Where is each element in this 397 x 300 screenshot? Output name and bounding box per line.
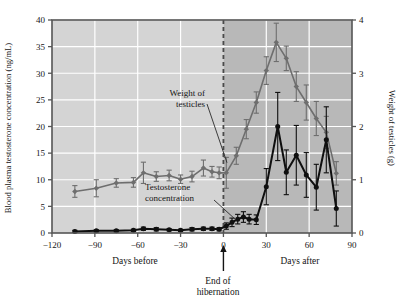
end-of-hibernation-label-line2: hibernation	[197, 287, 240, 297]
y-tick-label: 30	[36, 69, 46, 79]
x-tick-label: −120	[43, 240, 62, 250]
figure-container: 051015202530354001234−120−90−60−30030609…	[0, 0, 397, 300]
y-tick-label: 20	[36, 122, 46, 132]
data-point-marker	[190, 227, 195, 232]
data-point-marker	[210, 226, 215, 231]
testosterone-testicle-weight-chart: 051015202530354001234−120−90−60−30030609…	[0, 0, 397, 300]
testosterone-concentration-label-line2: concentration	[145, 193, 194, 203]
data-point-marker	[294, 153, 299, 158]
data-point-marker	[275, 124, 280, 129]
data-point-marker	[178, 228, 183, 233]
data-point-marker	[217, 227, 222, 232]
data-point-marker	[324, 137, 329, 142]
data-point-marker	[314, 185, 319, 190]
data-point-marker	[284, 170, 289, 175]
weight-of-testicles-label-line1: Weight of	[169, 88, 205, 98]
y-tick-label: 10	[36, 175, 46, 185]
data-point-marker	[201, 226, 206, 231]
x-tick-label: −30	[174, 240, 189, 250]
data-point-marker	[264, 184, 269, 189]
y2-tick-label: 3	[359, 69, 364, 79]
data-point-marker	[304, 172, 309, 177]
x-tick-label: 90	[348, 240, 358, 250]
data-point-marker	[141, 226, 146, 231]
x-tick-label: 60	[305, 240, 315, 250]
data-point-marker	[254, 217, 259, 222]
y-tick-label: 5	[41, 202, 46, 212]
y-tick-label: 15	[36, 148, 46, 158]
y2-tick-label: 0	[359, 228, 364, 238]
right-axis-title: Weight of testicles (g)	[387, 90, 397, 166]
end-of-hibernation-label-line1: End of	[205, 276, 231, 286]
y-tick-label: 35	[36, 42, 46, 52]
left-axis-title: Blood plasma testosterone concentration …	[3, 43, 13, 214]
y-tick-label: 0	[41, 228, 46, 238]
testosterone-concentration-label-line1: Testosterone	[145, 182, 190, 192]
data-point-marker	[224, 224, 229, 229]
data-point-marker	[241, 215, 246, 220]
data-point-marker	[154, 227, 159, 232]
y-tick-label: 40	[36, 15, 46, 25]
data-point-marker	[235, 217, 240, 222]
y2-tick-label: 2	[359, 122, 364, 132]
data-point-marker	[167, 227, 172, 232]
data-point-marker	[247, 217, 252, 222]
x-tick-label: 30	[262, 240, 272, 250]
weight-of-testicles-label-line2: testicles	[176, 99, 205, 109]
data-point-marker	[334, 206, 339, 211]
days-before-label: Days before	[112, 256, 158, 266]
data-point-marker	[131, 228, 136, 233]
y2-tick-label: 4	[359, 15, 364, 25]
x-tick-label: −60	[131, 240, 146, 250]
y2-tick-label: 1	[359, 175, 364, 185]
x-tick-label: −90	[88, 240, 103, 250]
days-after-label: Days after	[281, 256, 321, 266]
y-tick-label: 25	[36, 95, 46, 105]
data-point-marker	[230, 220, 235, 225]
